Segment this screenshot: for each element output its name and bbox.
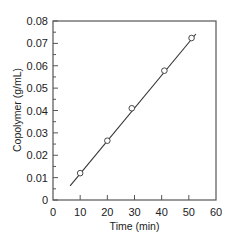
y-axis-label: Copolymer (g/mL) (11, 68, 23, 152)
x-tick-label: 40 (156, 206, 168, 218)
x-tick-label: 20 (101, 206, 113, 218)
data-point-marker (77, 170, 83, 176)
y-tick-label: 0.02 (27, 149, 48, 161)
chart: 00.010.020.030.040.050.060.070.08 010203… (0, 0, 230, 242)
x-tick-label: 50 (183, 206, 195, 218)
x-axis-label: Time (min) (110, 220, 160, 232)
y-axis-ticks: 00.010.020.030.040.050.060.070.08 (27, 15, 58, 206)
data-point-marker (105, 138, 111, 144)
data-point-marker (162, 68, 168, 74)
y-tick-label: 0.06 (27, 60, 48, 72)
x-tick-label: 60 (210, 206, 222, 218)
data-point-marker (129, 105, 135, 111)
y-tick-label: 0 (42, 194, 48, 206)
y-tick-label: 0.07 (27, 37, 48, 49)
y-tick-label: 0.03 (27, 127, 48, 139)
x-tick-label: 10 (74, 206, 86, 218)
data-point-marker (189, 35, 195, 41)
x-tick-label: 0 (50, 206, 56, 218)
y-tick-label: 0.05 (27, 82, 48, 94)
y-tick-label: 0.01 (27, 172, 48, 184)
x-axis-ticks: 0102030405060 (50, 195, 222, 218)
y-tick-label: 0.04 (27, 105, 48, 117)
x-tick-label: 30 (128, 206, 140, 218)
y-tick-label: 0.08 (27, 15, 48, 27)
